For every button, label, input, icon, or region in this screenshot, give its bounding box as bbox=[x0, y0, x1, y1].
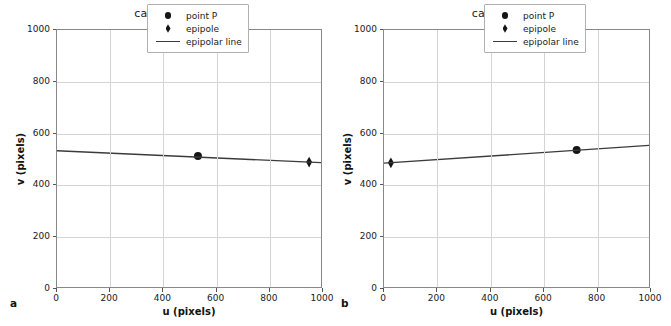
y-tick-mark bbox=[53, 236, 57, 237]
gridline-horizontal bbox=[57, 134, 321, 135]
gridline-vertical bbox=[217, 30, 218, 287]
x-axis-label: u (pixels) bbox=[490, 306, 543, 317]
legend-item-epipole: epipole bbox=[490, 22, 579, 35]
y-tick-label: 0 bbox=[345, 283, 377, 293]
gridline-vertical bbox=[491, 30, 492, 287]
legend-item-epipolar-line: epipolar line bbox=[153, 35, 242, 48]
x-tick-mark bbox=[597, 288, 598, 292]
point-p-marker bbox=[194, 152, 202, 160]
plot-data-layer bbox=[384, 30, 649, 287]
legend-label: epipolar line bbox=[183, 37, 242, 47]
plot-area bbox=[56, 29, 322, 288]
legend-label: epipole bbox=[183, 24, 219, 34]
y-tick-mark bbox=[380, 81, 384, 82]
legend-label: point P bbox=[183, 11, 217, 21]
y-tick-label: 200 bbox=[345, 231, 377, 241]
x-tick-mark bbox=[650, 288, 651, 292]
x-tick-label: 1000 bbox=[639, 293, 662, 303]
panel-camera-2: camera 2 point P epipole epipolar line b… bbox=[336, 0, 671, 326]
gridline-vertical bbox=[544, 30, 545, 287]
circle-marker-icon bbox=[153, 12, 183, 19]
x-tick-mark bbox=[322, 288, 323, 292]
y-tick-mark bbox=[53, 29, 57, 30]
y-tick-mark bbox=[53, 184, 57, 185]
x-tick-mark bbox=[109, 288, 110, 292]
y-tick-mark bbox=[380, 133, 384, 134]
legend-item-point-p: point P bbox=[490, 9, 579, 22]
circle-marker-icon bbox=[490, 12, 520, 19]
gridline-horizontal bbox=[384, 185, 649, 186]
gridline-vertical bbox=[110, 30, 111, 287]
x-tick-label: 400 bbox=[481, 293, 498, 303]
y-tick-mark bbox=[380, 29, 384, 30]
x-tick-mark bbox=[162, 288, 163, 292]
x-tick-mark bbox=[543, 288, 544, 292]
y-tick-label: 0 bbox=[18, 283, 50, 293]
x-tick-label: 400 bbox=[154, 293, 171, 303]
gridline-vertical bbox=[163, 30, 164, 287]
y-tick-mark bbox=[380, 184, 384, 185]
gridline-horizontal bbox=[384, 82, 649, 83]
y-tick-mark bbox=[53, 133, 57, 134]
line-marker-icon bbox=[153, 41, 183, 42]
x-tick-mark bbox=[56, 288, 57, 292]
panel-letter: a bbox=[10, 297, 17, 309]
y-tick-mark bbox=[53, 288, 57, 289]
gridline-vertical bbox=[437, 30, 438, 287]
figure-root: camera 1 point P epipole epipolar line a… bbox=[0, 0, 671, 326]
y-axis-label: v (pixels) bbox=[342, 132, 353, 184]
plot-data-layer bbox=[57, 30, 321, 287]
gridline-horizontal bbox=[384, 134, 649, 135]
x-tick-label: 800 bbox=[260, 293, 277, 303]
y-tick-label: 800 bbox=[18, 76, 50, 86]
legend-label: epipolar line bbox=[520, 37, 579, 47]
legend-label: point P bbox=[520, 11, 554, 21]
x-tick-label: 0 bbox=[380, 293, 386, 303]
x-tick-mark bbox=[490, 288, 491, 292]
panel-camera-1: camera 1 point P epipole epipolar line a… bbox=[0, 0, 336, 326]
gridline-horizontal bbox=[57, 185, 321, 186]
y-tick-label: 800 bbox=[345, 76, 377, 86]
y-tick-label: 200 bbox=[18, 231, 50, 241]
diamond-marker-icon bbox=[490, 24, 520, 33]
epipolar-line bbox=[57, 151, 321, 163]
y-tick-mark bbox=[380, 236, 384, 237]
gridline-horizontal bbox=[384, 237, 649, 238]
y-tick-label: 1000 bbox=[345, 24, 377, 34]
x-tick-mark bbox=[436, 288, 437, 292]
x-tick-mark bbox=[269, 288, 270, 292]
epipolar-line bbox=[384, 145, 649, 163]
gridline-horizontal bbox=[57, 237, 321, 238]
gridline-horizontal bbox=[57, 82, 321, 83]
x-tick-label: 1000 bbox=[311, 293, 334, 303]
y-tick-mark bbox=[53, 81, 57, 82]
y-tick-mark bbox=[380, 288, 384, 289]
x-tick-label: 200 bbox=[428, 293, 445, 303]
x-tick-label: 600 bbox=[207, 293, 224, 303]
legend-item-epipolar-line: epipolar line bbox=[490, 35, 579, 48]
x-tick-mark bbox=[383, 288, 384, 292]
x-tick-mark bbox=[216, 288, 217, 292]
legend-label: epipole bbox=[520, 24, 556, 34]
gridline-vertical bbox=[598, 30, 599, 287]
gridline-vertical bbox=[270, 30, 271, 287]
x-tick-label: 600 bbox=[535, 293, 552, 303]
legend: point P epipole epipolar line bbox=[484, 4, 586, 53]
y-axis-label: v (pixels) bbox=[15, 132, 26, 184]
x-axis-label: u (pixels) bbox=[163, 306, 216, 317]
panel-letter: b bbox=[341, 297, 349, 309]
x-tick-label: 200 bbox=[101, 293, 118, 303]
x-tick-label: 0 bbox=[53, 293, 59, 303]
legend-item-point-p: point P bbox=[153, 9, 242, 22]
plot-area bbox=[383, 29, 650, 288]
y-tick-label: 1000 bbox=[18, 24, 50, 34]
x-tick-label: 800 bbox=[588, 293, 605, 303]
legend-item-epipole: epipole bbox=[153, 22, 242, 35]
line-marker-icon bbox=[490, 41, 520, 42]
diamond-marker-icon bbox=[153, 24, 183, 33]
legend: point P epipole epipolar line bbox=[147, 4, 249, 53]
